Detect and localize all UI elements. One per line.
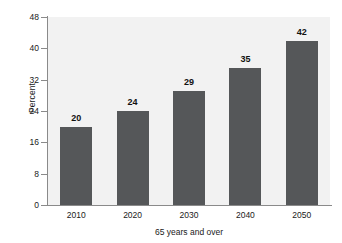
y-axis-tick-label: 16: [17, 138, 39, 147]
y-axis-tick: [41, 205, 47, 206]
bar: [286, 41, 318, 206]
chart-title-cropped: [60, 0, 280, 3]
x-axis-tick-label: 2020: [109, 211, 157, 220]
x-axis-tick-label: 2040: [221, 211, 269, 220]
bar-chart-figure: Percent 081624324048 2024293542 20102020…: [0, 0, 342, 243]
y-axis-tick-label: 24: [17, 107, 39, 116]
y-axis-tick-label: 0: [17, 201, 39, 210]
bar: [117, 111, 149, 205]
bar: [229, 68, 261, 205]
x-axis-tick-label: 2010: [52, 211, 100, 220]
bar: [60, 127, 92, 205]
bar: [173, 91, 205, 205]
bar-value-label: 24: [113, 98, 153, 107]
y-axis-tick-label: 48: [17, 13, 39, 22]
bar-value-label: 20: [56, 114, 96, 123]
x-axis-line: [47, 205, 332, 206]
bar-value-label: 42: [282, 28, 322, 37]
y-axis-tick-label: 8: [17, 170, 39, 179]
y-axis-tick-label: 32: [17, 76, 39, 85]
y-axis-tick: [41, 174, 47, 175]
y-axis-tick: [41, 48, 47, 49]
y-axis-tick: [41, 17, 47, 18]
y-axis-tick-label: 40: [17, 44, 39, 53]
y-axis-tick: [41, 80, 47, 81]
y-axis-tick: [41, 142, 47, 143]
x-axis-title: 65 years and over: [48, 228, 330, 237]
y-axis-line: [47, 16, 48, 206]
x-axis-tick-label: 2030: [165, 211, 213, 220]
y-axis-tick: [41, 111, 47, 112]
bar-value-label: 29: [169, 78, 209, 87]
bar-value-label: 35: [225, 55, 265, 64]
x-axis-tick-label: 2050: [278, 211, 326, 220]
